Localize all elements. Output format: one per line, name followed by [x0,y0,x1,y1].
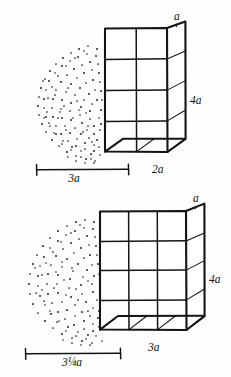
bottom-box-grid-horizontal-1 [100,241,186,242]
bottom-dimension-line-3quarter-a: 3¼a [26,348,121,368]
figure-root: a 4a 2a 3a [0,0,231,377]
bottom-label-width-3a: 3a [147,341,160,353]
bottom-box-side-face [186,204,204,330]
top-box-depth-tick [176,25,177,27]
top-label-width-2a: 2a [152,163,164,175]
bottom-label-height-4a: 4a [209,273,221,285]
top-panel: a 4a 2a 3a [37,10,202,184]
top-box-grid-horizontal-2 [105,90,167,91]
top-label-depth-a: a [174,10,180,22]
bottom-label-depth-a: a [193,192,199,204]
top-dimension-rule [37,169,129,170]
top-label-dome-3a: 3a [67,172,80,184]
top-box-grid-horizontal-1 [105,59,167,60]
top-stipple-dome [37,45,103,164]
top-dimension-line-3a: 3a [37,164,129,184]
bottom-label-dome-3quarter-a: 3¼a [61,356,82,368]
bottom-panel: a 4a 3a 3¼a [26,192,221,368]
top-label-height-4a: 4a [190,94,202,106]
bottom-dimension-rule [26,353,121,354]
bottom-box-depth-tick [195,207,196,209]
top-box-side-face [167,22,185,152]
bottom-box-grid-horizontal-2 [100,270,186,271]
diagram-canvas: a 4a 2a 3a [0,0,231,377]
bottom-stipple-dome [28,219,103,346]
